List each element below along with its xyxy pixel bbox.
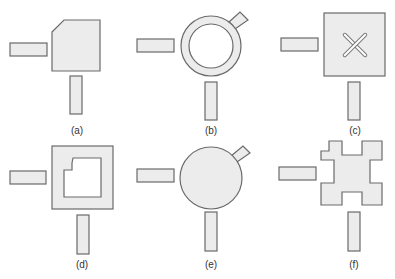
panel-label-e: (e) (205, 259, 217, 270)
diagram-canvas: (a) (b) (c) (d) (e) (f) (0, 0, 395, 279)
panel-b (137, 12, 248, 120)
panel-e (137, 146, 250, 251)
panel-label-d: (d) (76, 259, 88, 270)
panel-label-a: (a) (71, 125, 83, 136)
horizontal-feed-line (281, 38, 318, 51)
panel-d (10, 146, 113, 254)
panel-a (10, 20, 100, 114)
panel-f (279, 141, 382, 251)
vertical-feed-line (348, 82, 360, 120)
patch-shape (52, 20, 100, 71)
horizontal-feed-line (279, 167, 316, 180)
vertical-feed-line (70, 76, 82, 114)
horizontal-feed-line (10, 43, 47, 56)
patch-shape (321, 141, 382, 205)
panel-label-c: (c) (349, 125, 361, 136)
horizontal-feed-line (137, 39, 174, 52)
vertical-feed-line (77, 215, 89, 254)
disc-patch (180, 147, 242, 209)
panel-label-f: (f) (349, 259, 358, 270)
vertical-feed-line (205, 212, 217, 251)
panel-c (281, 13, 385, 120)
vertical-feed-line (205, 82, 217, 120)
antenna-patch-diagram: (a) (b) (c) (d) (e) (f) (0, 0, 395, 279)
ring-inner (189, 24, 233, 68)
panel-label-b: (b) (205, 125, 217, 136)
horizontal-feed-line (137, 169, 174, 182)
vertical-feed-line (348, 212, 360, 251)
horizontal-feed-line (10, 171, 46, 184)
